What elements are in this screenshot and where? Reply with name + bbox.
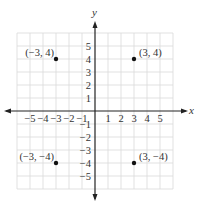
point-label: (3, 4) <box>139 47 162 59</box>
x-tick-label: 4 <box>144 113 150 124</box>
point-label: (−3, −4) <box>19 151 54 163</box>
point-marker <box>54 57 58 61</box>
y-axis-down-arrow-icon <box>93 194 98 201</box>
y-axis-up-arrow-icon <box>93 21 98 28</box>
y-axis-label: y <box>91 6 97 18</box>
y-tick-label: −3 <box>80 145 91 156</box>
x-tick-label: 1 <box>105 113 110 124</box>
x-axis-right-arrow-icon <box>181 109 188 114</box>
y-tick-label: −4 <box>80 158 92 169</box>
point-label: (3, −4) <box>139 151 168 163</box>
x-tick-label: −5 <box>24 113 35 124</box>
x-axis-left-arrow-icon <box>4 109 11 114</box>
x-tick-label: −4 <box>37 113 49 124</box>
point-marker <box>132 57 136 61</box>
x-tick-label: 2 <box>118 113 123 124</box>
y-tick-label: 2 <box>86 80 91 91</box>
y-tick-label: 4 <box>86 54 92 65</box>
point-label: (−3, 4) <box>25 47 54 59</box>
y-tick-label: 1 <box>86 93 91 104</box>
x-tick-label: −3 <box>50 113 61 124</box>
y-tick-label: −5 <box>80 171 91 182</box>
x-tick-label: 5 <box>157 113 162 124</box>
axes: x y <box>4 6 194 201</box>
y-tick-label: −2 <box>80 132 91 143</box>
plotted-points: (−3, 4)(3, 4)(−3, −4)(3, −4) <box>19 47 168 165</box>
x-axis-label: x <box>188 104 194 116</box>
point-marker <box>132 161 136 165</box>
y-tick-label: −1 <box>80 119 91 130</box>
x-tick-label: 3 <box>131 113 136 124</box>
y-tick-label: 5 <box>86 41 91 52</box>
x-tick-label: −2 <box>63 113 74 124</box>
y-tick-label: 3 <box>86 67 91 78</box>
coordinate-plane: x y −5−4−3−2−11234554321−1−2−3−4−5 (−3, … <box>0 0 198 211</box>
point-marker <box>54 161 58 165</box>
